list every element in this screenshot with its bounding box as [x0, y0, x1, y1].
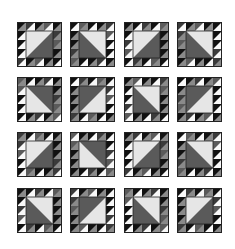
quilt-block — [70, 132, 115, 177]
sawtooth-block-icon — [177, 22, 222, 67]
sawtooth-block-icon — [177, 188, 222, 233]
quilt-block — [17, 22, 62, 67]
quilt-block — [17, 188, 62, 233]
sawtooth-block-icon — [177, 132, 222, 177]
quilt-grid — [0, 0, 235, 249]
sawtooth-block-icon — [177, 77, 222, 122]
quilt-block — [70, 77, 115, 122]
sawtooth-block-icon — [17, 77, 62, 122]
quilt-block — [177, 77, 222, 122]
sawtooth-block-icon — [70, 22, 115, 67]
quilt-block — [124, 188, 169, 233]
sawtooth-block-icon — [124, 132, 169, 177]
sawtooth-block-icon — [17, 22, 62, 67]
sawtooth-block-icon — [70, 77, 115, 122]
sawtooth-block-icon — [17, 188, 62, 233]
sawtooth-block-icon — [124, 77, 169, 122]
sawtooth-block-icon — [17, 132, 62, 177]
quilt-block — [70, 188, 115, 233]
quilt-block — [17, 132, 62, 177]
quilt-block — [70, 22, 115, 67]
quilt-block — [124, 132, 169, 177]
quilt-block — [124, 77, 169, 122]
quilt-block — [17, 77, 62, 122]
quilt-block — [177, 188, 222, 233]
sawtooth-block-icon — [70, 188, 115, 233]
quilt-block — [177, 22, 222, 67]
quilt-block — [177, 132, 222, 177]
sawtooth-block-icon — [124, 188, 169, 233]
sawtooth-block-icon — [124, 22, 169, 67]
sawtooth-block-icon — [70, 132, 115, 177]
quilt-block — [124, 22, 169, 67]
